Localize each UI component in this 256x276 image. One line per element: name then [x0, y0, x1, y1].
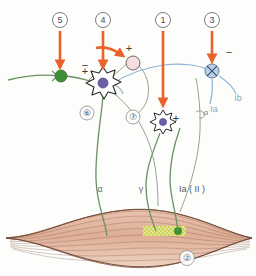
- callout-number-3-label: 3: [209, 15, 214, 25]
- sign-plus-6: +: [82, 65, 88, 77]
- label-ia-ii-fiber: Ia ( II ): [179, 184, 205, 194]
- muscle-spindle: [143, 226, 186, 236]
- label-alpha-fiber: α: [97, 184, 102, 194]
- reflex-diagram-figure: 5 4 1 3 ⑥ ⑦ ② − + + + −: [0, 0, 256, 276]
- sign-minus-3: −: [226, 46, 232, 58]
- callout-number-4[interactable]: 4: [96, 13, 111, 28]
- callout-number-4-label: 4: [100, 15, 105, 25]
- inline-number-6-label: ⑥: [83, 108, 91, 118]
- label-gamma-fiber: γ: [139, 184, 144, 194]
- callout-number-5-label: 5: [57, 15, 62, 25]
- arrow-4-curved: [96, 47, 122, 55]
- ia-blue-line: [210, 79, 212, 104]
- left-afferent-segment: [8, 75, 60, 80]
- sign-plus-1: +: [173, 112, 179, 124]
- skeletal-muscle-belly: [6, 209, 252, 267]
- inline-number-7[interactable]: ⑦: [126, 110, 140, 124]
- callout-number-5[interactable]: 5: [53, 13, 68, 28]
- excitatory-interneuron: [126, 56, 140, 70]
- inline-number-6[interactable]: ⑥: [80, 106, 94, 120]
- ib-blue-line: [219, 76, 236, 94]
- inline-number-2[interactable]: ②: [180, 251, 195, 266]
- callout-number-1[interactable]: 1: [156, 13, 171, 28]
- label-o-marker: o: [204, 108, 209, 117]
- arc-recurrent-long: [112, 92, 158, 206]
- inline-number-7-label: ⑦: [129, 112, 137, 122]
- callout-number-3[interactable]: 3: [205, 13, 220, 28]
- inline-number-2-label: ②: [183, 253, 191, 263]
- alpha-motor-neuron-soma: [86, 67, 121, 99]
- label-ia-fiber: Ia: [210, 104, 218, 114]
- diagram-canvas: 5 4 1 3 ⑥ ⑦ ② − + + + −: [0, 0, 256, 276]
- callout-number-1-label: 1: [160, 15, 165, 25]
- golgi-tendon-organ: [205, 64, 219, 78]
- sign-plus-4: +: [126, 42, 132, 54]
- label-ib-fiber: Ib: [234, 93, 242, 103]
- ib-arc-to-interneuron: [112, 64, 206, 84]
